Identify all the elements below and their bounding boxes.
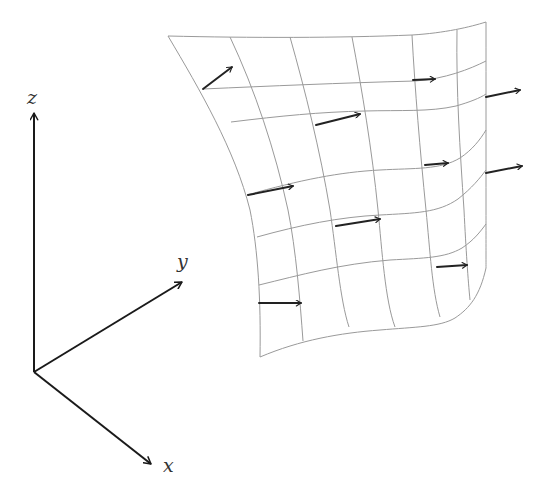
vector-arrow [248, 186, 293, 195]
grid-row-5 [259, 224, 486, 285]
surface-grid [168, 22, 486, 357]
z-axis-label: z [26, 86, 38, 108]
grid-col-0 [168, 36, 260, 357]
vector-arrow [437, 265, 467, 267]
vector-arrow [486, 90, 520, 97]
vector-field [203, 67, 522, 303]
vector-arrow [203, 67, 232, 89]
vector-arrow [316, 114, 360, 125]
vector-arrow [413, 79, 435, 80]
x-axis [34, 372, 151, 464]
y-axis-label: y [176, 250, 188, 272]
y-axis [34, 282, 182, 372]
grid-col-1 [230, 37, 303, 341]
diagram-canvas: z y x [0, 0, 550, 490]
grid-row-1 [203, 61, 486, 89]
grid-row-3 [247, 130, 486, 195]
vector-arrow [486, 166, 522, 173]
vector-arrow [336, 219, 380, 226]
grid-col-3 [352, 37, 395, 327]
coordinate-axes: z y x [26, 86, 188, 476]
grid-col-4 [412, 35, 440, 317]
grid-row-2 [231, 94, 486, 122]
x-axis-label: x [163, 454, 174, 476]
grid-row-6 [260, 268, 486, 357]
grid-row-0 [168, 22, 486, 37]
